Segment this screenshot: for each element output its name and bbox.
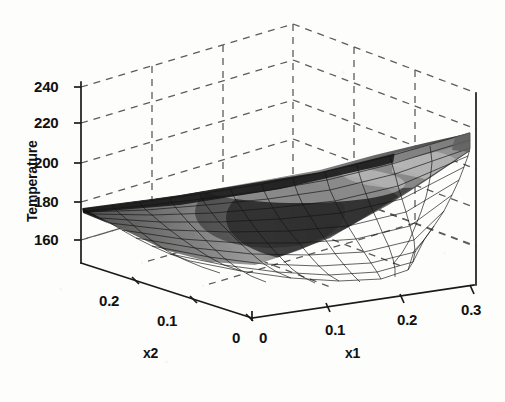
z-axis-title: Temperature (24, 140, 40, 222)
x1-tick-0-1: 0.1 (325, 321, 345, 338)
x1-axis-title: x1 (345, 345, 360, 361)
z-tick-160: 160 (34, 231, 58, 248)
x1-tick-0-3: 0.3 (461, 301, 481, 318)
x2-tick-0-2: 0.2 (99, 292, 119, 309)
x1-tick-0-2: 0.2 (397, 311, 417, 328)
surface-peak (452, 132, 470, 152)
z-axis-ticks (74, 87, 81, 240)
x2-tick-0: 0 (232, 329, 240, 346)
response-surface (82, 132, 470, 283)
x1-tick-0: 0 (259, 329, 267, 346)
x2-axis-ticks (132, 277, 253, 321)
surface-plot-figure: 240 220 200 180 160 Temperature 0.2 0.1 … (0, 0, 505, 402)
z-tick-220: 220 (34, 114, 58, 131)
plot-canvas (0, 0, 505, 402)
x2-axis-title: x2 (143, 345, 158, 361)
x2-tick-0-1: 0.1 (157, 312, 177, 329)
z-tick-240: 240 (34, 78, 58, 95)
